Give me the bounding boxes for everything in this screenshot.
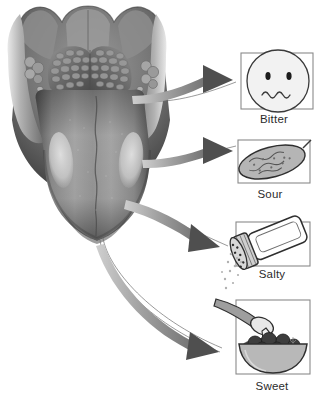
tongue-body (36, 89, 150, 244)
taste-label-sweet: Sweet (230, 380, 314, 392)
taste-box-bitter (241, 50, 313, 112)
taste-label-salty: Salty (230, 268, 314, 280)
taste-label-bitter: Bitter (232, 113, 316, 125)
illustration-svg (0, 0, 327, 408)
arrow-to-salty (124, 200, 220, 252)
arrow-to-sweet (96, 244, 219, 360)
taste-box-sweet (214, 299, 310, 374)
taste-label-sour: Sour (228, 188, 312, 200)
figure-canvas: Bitter Sour Salty Sweet (0, 0, 327, 408)
lingual-tonsils (48, 46, 132, 97)
taste-box-sour (235, 139, 311, 186)
grimacing-face-icon (247, 50, 309, 112)
